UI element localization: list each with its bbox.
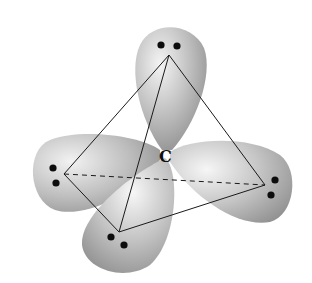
electron-dot-icon bbox=[157, 41, 164, 48]
electron-dot-icon bbox=[107, 233, 114, 240]
electron-dot-icon bbox=[267, 191, 274, 198]
carbon-label: C bbox=[159, 147, 172, 166]
electron-dot-icon bbox=[49, 164, 56, 171]
electron-dot-icon bbox=[173, 42, 180, 49]
tetrahedral-orbital-diagram: C bbox=[0, 0, 312, 283]
electron-dot-icon bbox=[52, 179, 59, 186]
orbital-figure: C bbox=[0, 0, 312, 283]
electron-dot-icon bbox=[271, 176, 278, 183]
orbital-lobe-top bbox=[135, 27, 206, 150]
electron-dot-icon bbox=[120, 241, 127, 248]
